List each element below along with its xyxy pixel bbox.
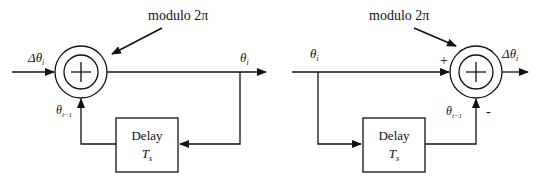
modulo-pointer-arrow bbox=[112, 28, 162, 54]
feedback-branch bbox=[180, 72, 240, 144]
minus-sign: - bbox=[486, 104, 491, 119]
delay-time-label: Ts bbox=[142, 146, 152, 163]
modulo-pointer-arrow bbox=[414, 28, 456, 46]
right-diagram: modulo 2π θi + Δθi Delay Ts θi−1 - bbox=[292, 8, 528, 172]
modulo-label: modulo 2π bbox=[369, 8, 429, 23]
left-diagram: modulo 2π Δθi θi Delay Ts θi−1 bbox=[12, 8, 266, 172]
plus-sign: + bbox=[440, 53, 448, 68]
delay-label: Delay bbox=[378, 128, 410, 143]
feedback-label: θi−1 bbox=[446, 104, 462, 120]
input-label: Δθi bbox=[27, 50, 44, 67]
modulo-label: modulo 2π bbox=[148, 8, 208, 23]
feedback-return-arrow bbox=[81, 99, 116, 144]
output-label: θi bbox=[240, 50, 249, 67]
delay-label: Delay bbox=[131, 128, 163, 143]
delay-box bbox=[363, 118, 425, 172]
delay-branch bbox=[318, 72, 361, 144]
delay-box bbox=[116, 118, 178, 172]
input-label: θi bbox=[310, 46, 319, 63]
feedback-label: θi−1 bbox=[56, 103, 72, 119]
delay-time-label: Ts bbox=[389, 146, 399, 163]
output-label: Δθi bbox=[501, 46, 518, 63]
